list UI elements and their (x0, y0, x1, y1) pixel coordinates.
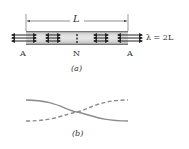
node-label: N (73, 49, 80, 58)
solid-curve (26, 100, 128, 121)
antinode-label-left: A (20, 49, 26, 58)
caption-a: (a) (71, 64, 82, 73)
antinode-label-right: A (127, 49, 133, 58)
diagram-canvas (0, 0, 189, 149)
dashed-curve (26, 100, 128, 121)
caption-b: (b) (72, 129, 83, 138)
wavelength-label: λ = 2L (146, 33, 173, 42)
length-label: L (73, 13, 80, 24)
